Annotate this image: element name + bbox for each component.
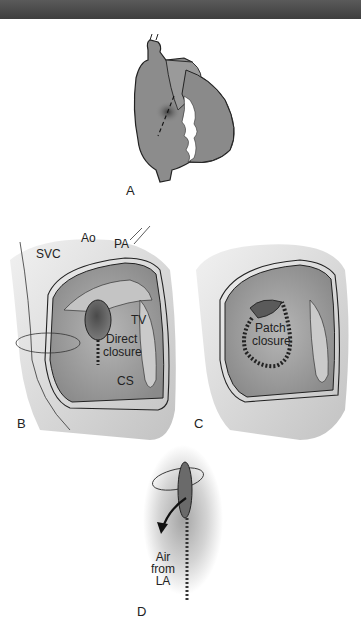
label-ao: Ao: [81, 232, 96, 245]
label-closure-c: closure: [252, 335, 291, 348]
label-cs: CS: [117, 375, 134, 388]
label-closure-b: closure: [103, 346, 142, 359]
label-la: LA: [150, 575, 176, 588]
panel-label-c: C: [194, 416, 203, 431]
panel-b-direct-closure: [10, 226, 176, 440]
panel-label-a: A: [126, 183, 135, 198]
panel-a-heart: [134, 34, 234, 182]
label-tv: TV: [131, 314, 146, 327]
panel-label-d: D: [137, 604, 146, 619]
label-svc: SVC: [36, 248, 61, 261]
label-pa: PA: [114, 238, 129, 251]
panel-label-b: B: [17, 416, 26, 431]
surgical-illustration: [0, 0, 361, 627]
